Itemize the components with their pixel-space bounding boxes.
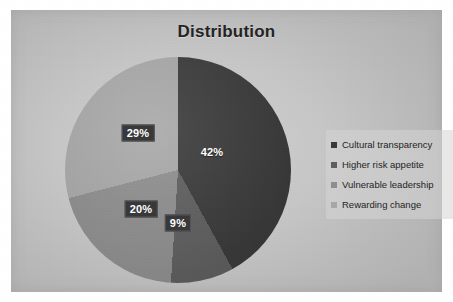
- slice-label-cultural-transparency: 42%: [201, 146, 224, 158]
- legend-swatch-icon: [331, 162, 337, 168]
- chart-screenshot: Distribution 42% 9% 20% 29% Cultural tra…: [0, 0, 453, 302]
- legend-item-label: Rewarding change: [342, 199, 421, 210]
- slice-label-vulnerable-leadership: 20%: [125, 201, 158, 218]
- legend-item-higher-risk-appetite[interactable]: Higher risk appetite: [331, 156, 449, 173]
- legend-item-label: Higher risk appetite: [342, 159, 424, 170]
- page-title: Distribution: [0, 22, 453, 42]
- pie-chart: 42% 9% 20% 29%: [65, 57, 291, 283]
- legend-item-vulnerable-leadership[interactable]: Vulnerable leadership: [331, 176, 449, 193]
- legend-swatch-icon: [331, 202, 337, 208]
- legend-swatch-icon: [331, 142, 337, 148]
- legend-item-cultural-transparency[interactable]: Cultural transparency: [331, 136, 449, 153]
- slice-label-rewarding-change: 29%: [122, 125, 155, 142]
- legend-item-label: Cultural transparency: [342, 139, 432, 150]
- legend-item-rewarding-change[interactable]: Rewarding change: [331, 196, 449, 213]
- legend: Cultural transparency Higher risk appeti…: [326, 130, 453, 219]
- legend-swatch-icon: [331, 182, 337, 188]
- legend-item-label: Vulnerable leadership: [342, 179, 434, 190]
- slice-label-higher-risk-appetite: 9%: [165, 215, 191, 232]
- pie-slices: [65, 57, 291, 283]
